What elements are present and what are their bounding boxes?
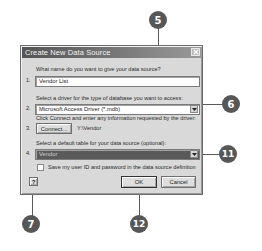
help-icon: ? [32,179,36,185]
callout-5: 5 [149,11,167,29]
save-credentials-label: Save my user ID and password in the data… [48,164,196,171]
connection-path: Y:\Vendor [77,125,101,132]
step-2-label: Select a driver for the type of database… [36,95,183,102]
step-1-number: 1. [26,77,31,84]
default-table-select-value: Vendor [39,151,57,157]
step-4-number: 4. [26,150,31,157]
save-credentials-checkbox[interactable] [37,164,44,171]
step-3-label: Click Connect and enter any information … [36,115,196,122]
cancel-button[interactable]: Cancel [161,176,196,188]
driver-select-value: Microsoft Access Driver (*.mdb) [39,106,120,112]
callout-6: 6 [222,95,240,113]
driver-select[interactable]: Microsoft Access Driver (*.mdb) [35,104,200,115]
close-icon [193,49,199,55]
default-table-select[interactable]: Vendor [35,149,200,160]
step-4-label: Select a default table for your data sou… [36,140,166,147]
callout-12: 12 [130,215,148,233]
help-button[interactable]: ? [29,177,38,186]
close-button[interactable] [191,48,200,56]
chevron-down-icon [192,153,197,156]
driver-dropdown-button[interactable] [190,105,198,113]
data-source-name-input[interactable]: Vendor List [35,76,200,87]
connect-button[interactable]: Connect... [36,123,72,134]
ok-button[interactable]: OK [121,176,157,188]
callout-7: 7 [22,215,40,233]
chevron-down-icon [192,108,197,111]
step-3-number: 3. [26,125,31,132]
dialog-title: Create New Data Source [25,47,111,58]
step-2-number: 2. [26,105,31,112]
step-1-label: What name do you want to give your data … [36,66,161,73]
default-table-dropdown-button[interactable] [190,150,198,158]
callout-11: 11 [219,145,237,163]
